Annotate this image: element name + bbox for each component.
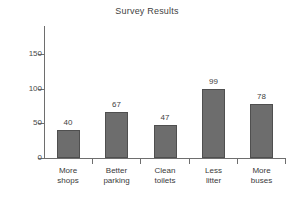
x-tick-mark-3: [189, 159, 190, 164]
bar-chart: Survey Results 150 100 50 0 40 67 47 99 …: [0, 0, 294, 197]
bar-more-buses: [250, 104, 273, 158]
x-tick-mark-1: [92, 159, 93, 164]
x-tick-mark-5: [285, 159, 286, 164]
bar-more-shops: [57, 130, 80, 158]
x-category-label-more-shops: More shops: [42, 166, 94, 186]
x-category-label-line-2: litter: [188, 176, 240, 186]
x-category-label-line-2: toilets: [139, 176, 191, 186]
x-tick-mark-2: [140, 159, 141, 164]
x-category-label-line-2: buses: [236, 176, 288, 186]
x-category-label-clean-toilets: Clean toilets: [139, 166, 191, 186]
chart-title: Survey Results: [0, 6, 294, 16]
x-tick-mark-4: [237, 159, 238, 164]
x-category-label-less-litter: Less litter: [188, 166, 240, 186]
y-tick-label-50: 50: [12, 119, 42, 127]
y-tick-label-150: 150: [12, 50, 42, 58]
x-category-label-line-2: shops: [42, 176, 94, 186]
x-category-label-line-2: parking: [91, 176, 143, 186]
x-category-label-line-1: More: [236, 166, 288, 176]
x-category-label-more-buses: More buses: [236, 166, 288, 186]
x-category-label-line-1: Less: [188, 166, 240, 176]
x-axis-line: [44, 158, 286, 159]
bar-value-label-better-parking: 67: [103, 101, 131, 109]
x-category-label-line-1: More: [42, 166, 94, 176]
y-tick-label-100: 100: [12, 85, 42, 93]
bar-clean-toilets: [154, 125, 177, 158]
bar-value-label-less-litter: 99: [200, 78, 228, 86]
bar-less-litter: [202, 89, 225, 158]
y-axis-line: [44, 26, 45, 159]
bar-value-label-clean-toilets: 47: [151, 114, 179, 122]
y-tick-label-0: 0: [12, 154, 42, 162]
bar-value-label-more-buses: 78: [248, 93, 276, 101]
x-category-label-line-1: Clean: [139, 166, 191, 176]
bar-value-label-more-shops: 40: [54, 119, 82, 127]
bar-better-parking: [105, 112, 128, 158]
x-category-label-line-1: Better: [91, 166, 143, 176]
x-category-label-better-parking: Better parking: [91, 166, 143, 186]
